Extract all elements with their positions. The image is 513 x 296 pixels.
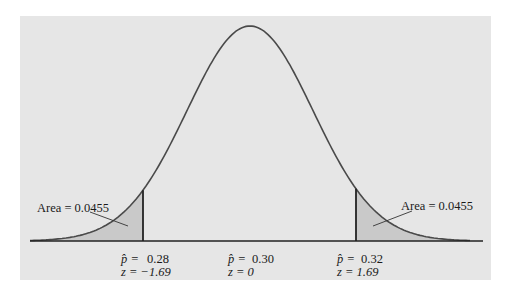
center-z-label: z = 0: [228, 265, 254, 279]
center-phat-prefix: p̂ =: [228, 252, 246, 266]
center-phat-value: 0.30: [252, 252, 274, 266]
left-area-label: Area = 0.0455: [37, 201, 109, 215]
right-phat-prefix: p̂ =: [337, 252, 355, 266]
right-area-label: Area = 0.0455: [401, 199, 473, 213]
left-phat-value: 0.28: [147, 252, 169, 266]
right-phat-value: 0.32: [361, 252, 383, 266]
right-z-label: z = 1.69: [337, 265, 378, 279]
left-z-label: z = −1.69: [121, 265, 171, 279]
left-phat-prefix: p̂ =: [121, 252, 139, 266]
